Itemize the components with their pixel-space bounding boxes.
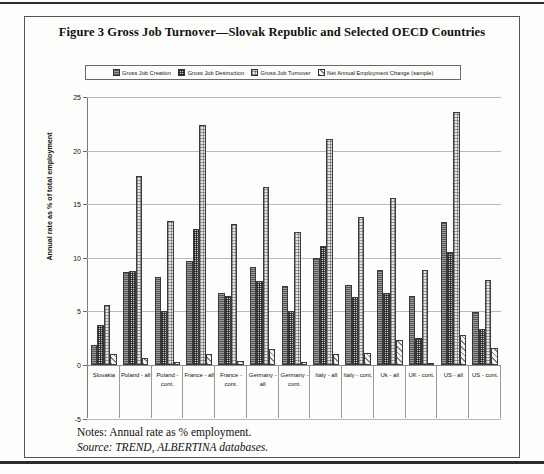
bar-group xyxy=(279,81,311,418)
bar xyxy=(453,112,459,365)
y-tick-label: 5 xyxy=(77,308,81,315)
bar xyxy=(326,139,332,365)
bar-group-bars xyxy=(469,97,501,365)
y-tick-label: 20 xyxy=(73,147,81,154)
bar xyxy=(269,349,275,365)
x-axis-label: Italy - cont. xyxy=(342,371,374,388)
source-line: Source: TREND, ALBERTINA databases. xyxy=(77,440,477,455)
x-axis-label: Slovakia xyxy=(88,371,120,388)
x-axis-label: Poland - all xyxy=(120,371,152,388)
x-axis-label: Germany - all xyxy=(247,371,279,388)
x-axis-label: UK - cont. xyxy=(406,371,438,388)
y-tick-mark xyxy=(83,204,87,205)
x-axis-labels: SlovakiaPoland - allPoland - cont.France… xyxy=(88,371,501,388)
bar-group xyxy=(406,81,438,418)
bar-group xyxy=(310,81,342,418)
plot-area: -50510152025 SlovakiaPoland - allPoland … xyxy=(87,81,501,409)
bar-groups xyxy=(88,81,501,418)
x-axis-label: France - cont. xyxy=(215,371,247,388)
page-canvas: Figure 3 Gross Job Turnover—Slovak Repub… xyxy=(0,0,544,474)
y-tick-mark xyxy=(83,258,87,259)
bar xyxy=(174,362,180,365)
x-axis-label: France - all xyxy=(183,371,215,388)
y-tick-mark xyxy=(83,365,87,366)
bar-group-bars xyxy=(310,97,342,365)
bar-group xyxy=(437,81,469,418)
bar-group-bars xyxy=(279,97,311,365)
bar xyxy=(422,270,428,365)
bar xyxy=(460,335,466,365)
y-tick-label: 25 xyxy=(73,94,81,101)
y-tick-label: 15 xyxy=(73,201,81,208)
bar xyxy=(231,224,237,366)
bar xyxy=(237,361,243,365)
x-axis-label: Poland - cont. xyxy=(152,371,184,388)
x-axis-label: Italy - all xyxy=(310,371,342,388)
page-bottom-rule xyxy=(0,461,544,464)
y-tick-label: 0 xyxy=(77,362,81,369)
y-tick-mark xyxy=(83,311,87,312)
bar-group xyxy=(469,81,501,418)
notes-line: Notes: Annual rate as % employment. xyxy=(77,425,477,440)
bar-group xyxy=(152,81,184,418)
y-tick-label: 10 xyxy=(73,254,81,261)
page-top-rule xyxy=(0,2,544,4)
y-tick-label: -5 xyxy=(75,415,81,422)
bar-group-bars xyxy=(406,97,438,365)
bar-group-bars xyxy=(152,97,184,365)
bar xyxy=(396,340,402,365)
bar xyxy=(491,348,497,365)
bar-group-bars xyxy=(215,97,247,365)
bar xyxy=(110,354,116,365)
x-axis-label: US - cont. xyxy=(469,371,501,388)
gridline xyxy=(87,419,501,420)
plot-wrapper: Annual rate as % of total employment -50… xyxy=(25,17,521,459)
x-axis-label: Uk - all xyxy=(374,371,406,388)
bar-group-bars xyxy=(342,97,374,365)
bar xyxy=(142,358,148,366)
figure-notes: Notes: Annual rate as % employment. Sour… xyxy=(77,425,477,455)
bar-group-bars xyxy=(183,97,215,365)
bar xyxy=(358,217,364,365)
bar-group xyxy=(215,81,247,418)
bar-group xyxy=(342,81,374,418)
bar-group-bars xyxy=(374,97,406,365)
bar-group xyxy=(374,81,406,418)
bar-group-bars xyxy=(88,97,120,365)
bar xyxy=(364,353,370,365)
bar-group-bars xyxy=(247,97,279,365)
bar xyxy=(206,354,212,365)
y-tick-mark xyxy=(83,419,87,420)
y-axis-title: Annual rate as % of total employment xyxy=(45,87,54,307)
bar-group xyxy=(247,81,279,418)
x-axis-label: US - all xyxy=(437,371,469,388)
y-tick-mark xyxy=(83,97,87,98)
bar xyxy=(199,125,205,365)
bar-group-bars xyxy=(120,97,152,365)
bar-group xyxy=(120,81,152,418)
bar xyxy=(428,363,434,365)
bar xyxy=(294,232,300,365)
bar xyxy=(136,176,142,365)
x-axis-label: Germany -cont. xyxy=(279,371,311,388)
bar xyxy=(263,187,269,365)
bar-group xyxy=(183,81,215,418)
bar xyxy=(167,221,173,365)
bar-group-bars xyxy=(437,97,469,365)
bar-group xyxy=(88,81,120,418)
bar xyxy=(333,354,339,365)
bar xyxy=(301,362,307,365)
y-tick-mark xyxy=(83,151,87,152)
figure-container: Figure 3 Gross Job Turnover—Slovak Repub… xyxy=(24,16,520,458)
